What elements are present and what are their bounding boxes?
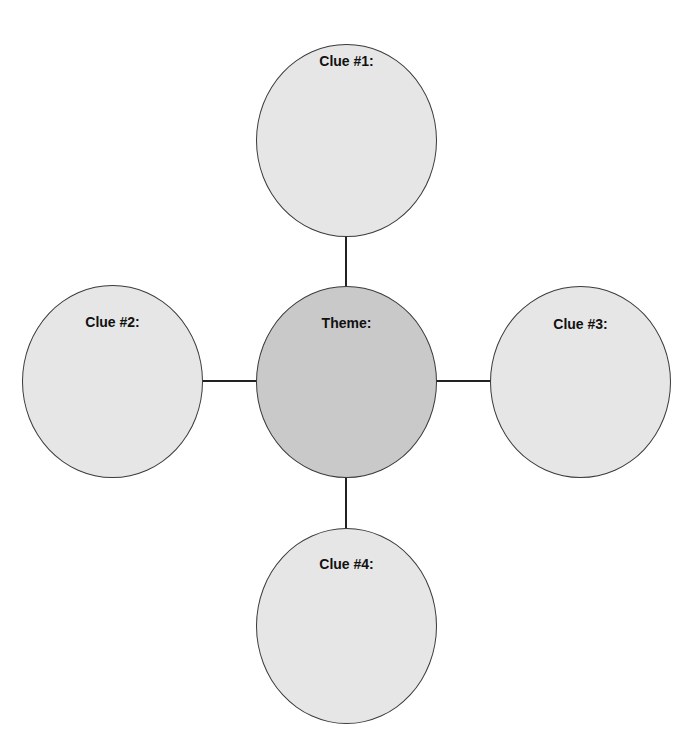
theme-label: Theme: (257, 315, 436, 331)
clue-4-label: Clue #4: (257, 556, 436, 572)
clue-3-circle[interactable]: Clue #3: (490, 286, 671, 478)
connector-right (436, 380, 491, 382)
clue-2-label: Clue #2: (23, 314, 202, 330)
theme-web-diagram: Clue #1: Clue #2: Theme: Clue #3: Clue #… (0, 0, 695, 751)
connector-top (345, 236, 347, 287)
theme-circle[interactable]: Theme: (256, 286, 437, 478)
clue-1-label: Clue #1: (257, 53, 436, 69)
connector-bottom (345, 477, 347, 529)
connector-left (202, 380, 257, 382)
clue-3-label: Clue #3: (491, 316, 670, 332)
clue-4-circle[interactable]: Clue #4: (256, 528, 437, 724)
clue-2-circle[interactable]: Clue #2: (22, 285, 203, 478)
clue-1-circle[interactable]: Clue #1: (256, 44, 437, 237)
